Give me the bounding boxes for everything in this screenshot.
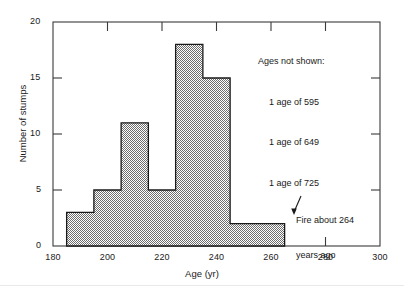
- x-tick-label-300: 300: [367, 253, 393, 262]
- figure-histogram-stump-ages: 20 15 10 5 0 180 200 220 240 260 280 300…: [0, 0, 404, 289]
- x-tick-label-220: 220: [149, 253, 175, 262]
- annotation-fire-line-2: years ago: [296, 250, 354, 262]
- y-tick-label-15: 15: [30, 73, 40, 82]
- y-tick-label-20: 20: [30, 17, 40, 26]
- y-tick-label-5: 5: [36, 185, 41, 194]
- histogram-bars: [67, 44, 285, 246]
- annotation-heading: Ages not shown:: [258, 55, 325, 69]
- page-edge-artifact: [0, 285, 404, 286]
- annotation-line-3: 1 age of 725: [258, 177, 325, 191]
- x-tick-label-240: 240: [204, 253, 230, 262]
- annotation-line-1: 1 age of 595: [258, 96, 325, 110]
- x-tick-label-200: 200: [95, 253, 121, 262]
- y-axis-title: Number of stumps: [17, 54, 28, 194]
- y-tick-label-0: 0: [36, 241, 41, 250]
- annotation-ages-not-shown: Ages not shown: 1 age of 595 1 age of 64…: [258, 28, 325, 217]
- x-tick-label-260: 260: [258, 253, 284, 262]
- annotation-fire-line-1: Fire about 264: [296, 215, 354, 227]
- annotation-line-2: 1 age of 649: [258, 136, 325, 150]
- annotation-fire: Fire about 264 years ago: [296, 192, 354, 284]
- x-tick-label-180: 180: [40, 253, 66, 262]
- y-tick-label-10: 10: [30, 129, 40, 138]
